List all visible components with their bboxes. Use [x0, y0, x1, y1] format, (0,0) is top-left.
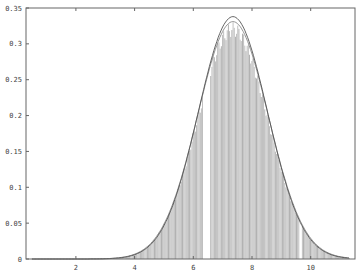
- histogram-bar: [257, 76, 258, 259]
- histogram-bar: [195, 132, 196, 259]
- histogram-bar: [181, 182, 182, 259]
- histogram-bar: [161, 230, 162, 259]
- histogram-bar: [194, 131, 195, 259]
- histogram-bar: [321, 249, 322, 259]
- histogram-bar: [210, 76, 211, 259]
- histogram-bar: [267, 115, 268, 259]
- histogram-bar: [248, 44, 249, 259]
- histogram-bar: [244, 46, 245, 259]
- histogram-bar: [153, 241, 154, 259]
- histogram-bar: [219, 42, 220, 259]
- histogram-bar: [146, 248, 147, 259]
- histogram-bar: [155, 239, 156, 259]
- histogram-bar: [275, 152, 276, 259]
- histogram-bar: [251, 61, 252, 259]
- histogram-bar: [281, 172, 282, 259]
- histogram-bar: [258, 82, 259, 259]
- histogram-bar: [237, 26, 238, 259]
- histogram-bar: [254, 67, 255, 259]
- histogram-chart: 00.050.10.150.20.250.30.35 246810: [0, 0, 363, 279]
- histogram-bar: [297, 216, 298, 259]
- y-tick-label: 0.1: [9, 184, 22, 192]
- histogram-bar: [192, 142, 193, 259]
- histogram-bar: [295, 213, 296, 259]
- histogram-bar: [320, 249, 321, 259]
- histogram-bar: [287, 188, 288, 259]
- histogram-bar: [253, 58, 254, 259]
- histogram-bar: [193, 133, 194, 259]
- histogram-bar: [224, 38, 225, 259]
- histogram-bar: [283, 176, 284, 259]
- histogram-bar: [230, 37, 231, 259]
- histogram-bar: [176, 195, 177, 259]
- histogram-bar: [233, 22, 234, 259]
- histogram-bar: [227, 30, 228, 259]
- x-tick-label: 4: [132, 264, 136, 272]
- histogram-bar: [311, 240, 312, 259]
- histogram-bar: [238, 29, 239, 259]
- histogram-bar: [291, 203, 292, 259]
- histogram-bar: [177, 189, 178, 259]
- histogram-bar: [145, 249, 146, 259]
- histogram-bar: [296, 215, 297, 259]
- histogram-bar: [236, 34, 237, 259]
- histogram-bar: [187, 159, 188, 259]
- y-tick-label: 0.05: [5, 220, 22, 228]
- histogram-bar: [268, 117, 269, 259]
- histogram-bar: [318, 247, 319, 259]
- histogram-bar: [199, 111, 200, 259]
- histogram-bar: [315, 245, 316, 259]
- x-tick-label: 6: [191, 264, 195, 272]
- histogram-bar: [190, 150, 191, 259]
- histogram-bar: [316, 245, 317, 259]
- histogram-bar: [156, 237, 157, 259]
- histogram-bar: [269, 126, 270, 259]
- histogram-bar: [249, 55, 250, 259]
- histogram-bar: [223, 31, 224, 259]
- histogram-bar: [163, 224, 164, 259]
- histogram-bar: [175, 199, 176, 259]
- histogram-bar: [186, 166, 187, 259]
- histogram-bar: [298, 219, 299, 259]
- histogram-bar: [159, 233, 160, 259]
- histogram-bar: [277, 154, 278, 259]
- histogram-bar: [188, 152, 189, 259]
- histogram-bar: [184, 169, 185, 259]
- histogram-bar: [168, 214, 169, 259]
- histogram-bar: [228, 24, 229, 259]
- histogram-bar: [273, 136, 274, 259]
- histogram-bar: [317, 246, 318, 259]
- histogram-bar: [226, 40, 227, 259]
- histogram-bar: [303, 228, 304, 259]
- histogram-bar: [246, 51, 247, 259]
- histogram-bar: [260, 93, 261, 259]
- histogram-bar: [304, 231, 305, 259]
- y-tick-label: 0.2: [9, 112, 22, 120]
- histogram-bar: [288, 191, 289, 259]
- histogram-bar: [147, 247, 148, 259]
- histogram-bar: [324, 251, 325, 259]
- histogram-bar: [250, 63, 251, 259]
- y-axis: 00.050.10.150.20.250.30.35: [5, 5, 29, 264]
- histogram-bar: [284, 183, 285, 259]
- histogram-bar: [314, 243, 315, 259]
- histogram-bar: [234, 28, 235, 259]
- x-tick-label: 10: [306, 264, 314, 272]
- histogram-bar: [220, 49, 221, 259]
- histogram-bar: [242, 34, 243, 259]
- histogram-bar: [263, 98, 264, 259]
- histogram-bar: [160, 232, 161, 259]
- histogram-bar: [170, 212, 171, 259]
- histogram-bar: [255, 78, 256, 259]
- histogram-bar: [183, 169, 184, 259]
- histogram-bar: [217, 44, 218, 259]
- histogram-bar: [169, 213, 170, 259]
- histogram-bar: [215, 61, 216, 259]
- histogram-bar: [270, 134, 271, 259]
- histogram-bar: [235, 37, 236, 259]
- histogram-bar: [290, 201, 291, 259]
- histogram-bar: [201, 108, 202, 259]
- histogram-bar: [180, 185, 181, 259]
- histogram-bar: [148, 245, 149, 259]
- histogram-bar: [261, 97, 262, 259]
